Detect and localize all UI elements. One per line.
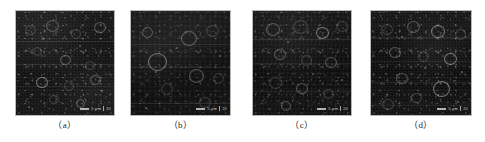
pore-feature bbox=[396, 73, 408, 84]
pore-feature bbox=[64, 81, 74, 91]
pore-feature bbox=[411, 93, 422, 103]
pore-feature bbox=[325, 57, 337, 68]
pore-feature bbox=[301, 55, 312, 66]
pore-feature bbox=[274, 49, 286, 60]
pore-feature bbox=[181, 31, 197, 46]
pore-feature bbox=[60, 55, 71, 65]
pore-feature bbox=[213, 73, 224, 84]
scale-bar-right-mark: 20 bbox=[343, 106, 348, 111]
micrograph-image-d: 5 μm 20 bbox=[370, 10, 472, 116]
pore-feature bbox=[293, 20, 308, 34]
figure-panel-grid: 5 μm 20 （a） bbox=[0, 0, 485, 142]
scale-bar-tick bbox=[460, 106, 461, 111]
bright-speck bbox=[457, 101, 459, 103]
pore-feature bbox=[296, 83, 308, 94]
scale-bar-tick bbox=[103, 106, 104, 111]
bright-speck bbox=[145, 107, 147, 109]
pore-feature bbox=[25, 25, 36, 35]
micrograph-image-a: 5 μm 20 bbox=[15, 10, 115, 116]
panel-group-c: 5 μm 20 （c） bbox=[252, 10, 352, 142]
scale-bar-line bbox=[196, 108, 205, 110]
scan-band bbox=[131, 103, 230, 104]
scale-bar-label: 5 μm bbox=[328, 106, 338, 111]
scale-bar-line bbox=[317, 108, 326, 110]
pore-feature bbox=[94, 22, 106, 33]
scale-bar-b: 5 μm 20 bbox=[196, 105, 227, 112]
bright-speck bbox=[155, 71, 157, 73]
bright-speck bbox=[28, 106, 30, 108]
pore-feature bbox=[444, 53, 457, 65]
bright-speck bbox=[79, 45, 81, 47]
pore-feature bbox=[281, 101, 291, 111]
panel-caption-d: （d） bbox=[370, 120, 472, 131]
panel-caption-b: （b） bbox=[130, 120, 231, 131]
panel-group-a: 5 μm 20 （a） bbox=[15, 10, 115, 142]
scan-band bbox=[371, 82, 471, 83]
panel-caption-c: （c） bbox=[252, 120, 352, 131]
panel-group-b: 5 μm 20 （b） bbox=[130, 10, 231, 142]
bright-speck bbox=[461, 71, 463, 73]
scale-bar-line bbox=[80, 108, 89, 110]
scale-bar-c: 5 μm 20 bbox=[317, 105, 348, 112]
pore-feature bbox=[381, 24, 393, 35]
scale-bar-label: 5 μm bbox=[91, 106, 101, 111]
scale-bar-tick bbox=[340, 106, 341, 111]
pore-feature bbox=[71, 29, 81, 39]
scan-band bbox=[253, 39, 351, 40]
pore-feature bbox=[316, 27, 329, 39]
pore-feature bbox=[148, 53, 167, 71]
pore-feature bbox=[455, 29, 466, 40]
scale-bar-label: 5 μm bbox=[207, 106, 217, 111]
pore-feature bbox=[49, 95, 59, 104]
pore-feature bbox=[33, 47, 42, 56]
scale-bar-right-mark: 20 bbox=[463, 106, 468, 111]
scale-bar-line bbox=[437, 108, 446, 110]
scale-bar-right-mark: 20 bbox=[106, 106, 111, 111]
pore-feature bbox=[161, 83, 173, 95]
scale-bar-a: 5 μm 20 bbox=[80, 105, 111, 112]
scale-bar-label: 5 μm bbox=[448, 106, 458, 111]
scan-band bbox=[16, 41, 114, 42]
pore-feature bbox=[389, 47, 401, 58]
pore-feature bbox=[46, 20, 59, 32]
scale-bar-d: 5 μm 20 bbox=[437, 105, 468, 112]
pore-feature bbox=[90, 75, 101, 85]
scale-bar-right-mark: 20 bbox=[222, 106, 227, 111]
pore-feature bbox=[269, 77, 282, 89]
micrograph-image-c: 5 μm 20 bbox=[252, 10, 352, 116]
scale-bar-tick bbox=[219, 106, 220, 111]
panel-caption-a: （a） bbox=[15, 120, 115, 131]
pore-feature bbox=[431, 25, 445, 38]
bright-speck bbox=[424, 67, 426, 69]
scan-band bbox=[131, 67, 230, 68]
bright-speck bbox=[287, 41, 289, 43]
panel-group-d: 5 μm 20 （d） bbox=[370, 10, 472, 142]
pore-feature bbox=[433, 81, 450, 97]
pore-feature bbox=[206, 25, 219, 37]
pore-feature bbox=[418, 51, 429, 62]
bright-speck bbox=[101, 90, 103, 92]
bright-speck bbox=[176, 47, 178, 49]
bright-speck bbox=[219, 55, 221, 57]
bright-speck bbox=[341, 79, 343, 81]
scan-band bbox=[131, 44, 230, 45]
pore-feature bbox=[382, 99, 394, 110]
bright-speck bbox=[42, 38, 44, 40]
micrograph-image-b: 5 μm 20 bbox=[130, 10, 231, 116]
pore-feature bbox=[336, 21, 348, 32]
pore-feature bbox=[266, 23, 280, 36]
pore-feature bbox=[36, 77, 48, 88]
pore-feature bbox=[142, 27, 153, 38]
pore-feature bbox=[85, 61, 95, 70]
pore-feature bbox=[189, 69, 204, 83]
pore-feature bbox=[323, 89, 334, 99]
bright-speck bbox=[401, 36, 403, 38]
pore-feature bbox=[407, 21, 420, 33]
bright-speck bbox=[312, 73, 314, 75]
